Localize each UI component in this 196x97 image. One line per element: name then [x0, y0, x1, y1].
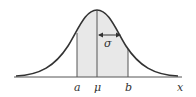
label-b: b — [125, 81, 132, 94]
label-x: x — [177, 81, 184, 94]
sigma-label: σ — [104, 37, 112, 50]
label-a: a — [74, 81, 81, 94]
normal-distribution-diagram: σ a μ b x — [0, 0, 196, 97]
label-mu: μ — [94, 81, 101, 94]
